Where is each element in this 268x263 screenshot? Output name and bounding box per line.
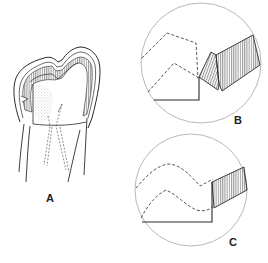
enamel-slab-b xyxy=(216,35,260,91)
label-a: A xyxy=(46,192,54,204)
enamel-slab-c xyxy=(212,167,247,208)
label-b: B xyxy=(234,114,242,126)
dentin-stipple xyxy=(32,85,53,122)
root-left xyxy=(19,124,24,172)
pulp-dashed xyxy=(44,116,50,165)
label-c: C xyxy=(229,236,237,248)
panel-c-detail: C xyxy=(135,134,247,248)
panel-a-tooth: A xyxy=(14,47,100,204)
root-right xyxy=(68,130,80,182)
panel-b-detail: B xyxy=(141,3,261,126)
dental-diagram: A B C xyxy=(0,0,268,263)
